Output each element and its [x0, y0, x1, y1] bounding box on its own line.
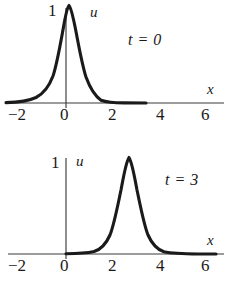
- x-axis-label-top: x: [207, 82, 214, 97]
- y-axis-label-bottom: u: [76, 154, 84, 169]
- plot-panel-top: 1 u x t = 0 −2 0 2 4 6: [0, 0, 230, 151]
- y-tick-label-one-bottom: 1: [51, 154, 60, 171]
- x-tick-label-top-0: −2: [8, 106, 26, 123]
- plot-panel-bottom: 1 u x t = 3 −2 0 2 4 6: [0, 151, 230, 302]
- y-tick-label-one-top: 1: [48, 2, 57, 19]
- x-axis-label-bottom: x: [207, 233, 214, 248]
- annotation-time-top: t = 0: [128, 32, 162, 48]
- y-axis-label-top: u: [90, 5, 98, 20]
- x-tick-label-top-1: 0: [60, 106, 69, 123]
- x-tick-label-bottom-0: −2: [8, 257, 26, 274]
- annotation-time-bottom: t = 3: [165, 172, 199, 188]
- curve-top: [6, 6, 146, 104]
- x-tick-label-bottom-2: 2: [108, 257, 117, 274]
- x-tick-label-bottom-3: 4: [156, 257, 165, 274]
- x-tick-label-bottom-1: 0: [60, 257, 69, 274]
- x-tick-label-top-3: 4: [156, 106, 165, 123]
- x-tick-label-top-4: 6: [201, 106, 210, 123]
- x-tick-label-top-2: 2: [108, 106, 117, 123]
- plot-top-svg: [0, 0, 230, 151]
- x-tick-label-bottom-4: 6: [201, 257, 210, 274]
